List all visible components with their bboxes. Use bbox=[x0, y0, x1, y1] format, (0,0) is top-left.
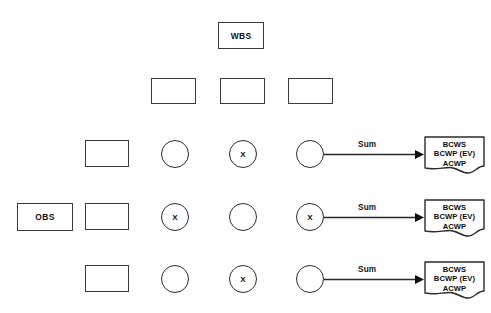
matrix-cell-r2c1: X bbox=[161, 203, 189, 231]
matrix-cell-r3c1 bbox=[161, 265, 189, 293]
sum-label-1: Sum bbox=[358, 140, 376, 149]
matrix-cell-r2c3: X bbox=[296, 203, 324, 231]
obs-child-box-1 bbox=[85, 140, 129, 167]
obs-node: OBS bbox=[17, 203, 73, 231]
arrowhead-icon bbox=[415, 213, 424, 222]
diagram-canvas: WBS OBS X X X X bbox=[0, 0, 491, 313]
matrix-cell-r3c2: X bbox=[229, 265, 257, 293]
obs-child-box-3 bbox=[85, 265, 129, 292]
matrix-cell-r2c3-label: X bbox=[307, 213, 313, 222]
matrix-cell-r2c2 bbox=[229, 203, 257, 231]
matrix-cell-r3c2-label: X bbox=[240, 275, 246, 284]
obs-node-label: OBS bbox=[35, 212, 54, 222]
matrix-cell-r2c1-label: X bbox=[172, 213, 178, 222]
matrix-cell-r3c3 bbox=[296, 265, 324, 293]
matrix-cell-r1c3 bbox=[296, 140, 324, 168]
wbs-child-box-3 bbox=[288, 78, 333, 104]
wbs-node: WBS bbox=[218, 22, 264, 49]
wbs-child-box-1 bbox=[151, 78, 196, 104]
wbs-node-label: WBS bbox=[231, 31, 252, 41]
sum-label-2: Sum bbox=[358, 203, 376, 212]
report-document-2: BCWS BCWP (EV) ACWP bbox=[424, 199, 485, 237]
wbs-child-box-2 bbox=[220, 78, 265, 104]
report-document-3: BCWS BCWP (EV) ACWP bbox=[424, 261, 485, 299]
arrowhead-icon bbox=[415, 150, 424, 159]
arrowhead-icon bbox=[415, 275, 424, 284]
matrix-cell-r1c2-label: X bbox=[240, 150, 246, 159]
sum-connector-2 bbox=[324, 210, 426, 225]
report-document-1: BCWS BCWP (EV) ACWP bbox=[424, 136, 485, 174]
matrix-cell-r1c2: X bbox=[229, 140, 257, 168]
sum-connector-3 bbox=[324, 272, 426, 287]
sum-label-3: Sum bbox=[358, 265, 376, 274]
matrix-cell-r1c1 bbox=[161, 140, 189, 168]
obs-child-box-2 bbox=[85, 203, 129, 230]
sum-connector-1 bbox=[324, 147, 426, 162]
